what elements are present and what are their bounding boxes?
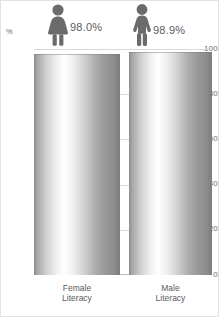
value-label-male: 98.9% [153,24,185,36]
female-person-icon [43,3,73,52]
bar-female-literacy[interactable] [34,54,120,275]
y-axis-unit-label: % [6,27,13,36]
bar-male-literacy[interactable] [129,52,212,275]
bar-top-cap [34,54,120,55]
value-label-female: 98.0% [70,21,102,33]
literacy-bar-chart: % 100 80 60 40 20 0 [0,0,219,317]
category-label-female-literacy: Female Literacy [34,283,120,303]
bar-top-cap [129,52,212,53]
plot-area [34,49,212,275]
category-label-male-literacy: Male Literacy [129,283,212,303]
